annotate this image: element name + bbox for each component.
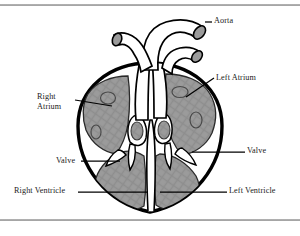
label-right-atrium-line2: Atrium <box>37 102 61 112</box>
label-left-ventricle: Left Ventricle <box>229 186 276 196</box>
label-valve-left: Valve <box>56 156 75 166</box>
label-aorta: Aorta <box>214 16 233 26</box>
label-right-atrium-line1: Right <box>37 92 61 102</box>
figure-page: Aorta Left Atrium Right Atrium Valve Val… <box>0 0 300 236</box>
heart-diagram <box>0 0 300 236</box>
label-right-atrium: Right Atrium <box>37 92 61 111</box>
label-right-ventricle: Right Ventricle <box>14 186 65 196</box>
label-valve-right: Valve <box>247 146 266 156</box>
label-left-atrium: Left Atrium <box>216 73 256 83</box>
